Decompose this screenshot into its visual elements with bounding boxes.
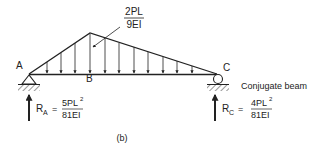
diagram-title: Conjugate beam bbox=[241, 81, 307, 91]
reaction-c-denominator: 81EI bbox=[251, 110, 270, 120]
reaction-a-denominator: 81EI bbox=[62, 110, 81, 120]
roller-support-icon bbox=[207, 75, 229, 92]
peak-annotation: 2PL 9EI bbox=[93, 6, 144, 47]
peak-leader-arrow bbox=[93, 27, 120, 47]
point-label-b: B bbox=[86, 73, 93, 84]
reaction-a-numerator: 5PL bbox=[62, 98, 78, 108]
peak-numerator: 2PL bbox=[125, 6, 143, 17]
reaction-c-numerator: 4PL bbox=[251, 98, 267, 108]
reaction-c-numerator-exp: 2 bbox=[269, 96, 273, 102]
peak-denominator: 9EI bbox=[126, 19, 141, 30]
reaction-a: R A = 5PL 2 81EI bbox=[29, 95, 84, 121]
figure-caption: (b) bbox=[117, 133, 128, 143]
reaction-c: R C = 4PL 2 81EI bbox=[215, 95, 273, 121]
load-diagram bbox=[29, 33, 217, 74]
reaction-c-subscript: C bbox=[229, 109, 234, 116]
reaction-a-equals: = bbox=[52, 104, 57, 114]
conjugate-beam-diagram: 2PL 9EI A B C Conjugate beam R A = 5PL 2… bbox=[0, 0, 327, 148]
load-outline bbox=[29, 33, 217, 74]
pin-support-icon bbox=[18, 75, 40, 91]
load-arrows bbox=[47, 34, 192, 73]
point-label-a: A bbox=[16, 60, 23, 71]
reaction-c-equals: = bbox=[238, 104, 243, 114]
reaction-a-numerator-exp: 2 bbox=[80, 96, 84, 102]
point-label-c: C bbox=[223, 62, 230, 73]
reaction-a-subscript: A bbox=[43, 109, 48, 116]
